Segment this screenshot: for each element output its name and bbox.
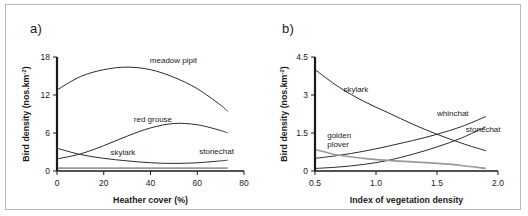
- x-axis-title: Heather cover (%): [113, 195, 188, 205]
- x-tick-label: 2.0: [492, 178, 504, 188]
- chart-b: 0.51.01.52.001.534.5Index of vegetation …: [258, 5, 516, 209]
- series-curve-meadow-pipit: [57, 67, 228, 111]
- panel-b: b) 0.51.01.52.001.534.5Index of vegetati…: [258, 5, 516, 209]
- x-tick-label: 80: [239, 178, 249, 188]
- y-axis-title: Bird density (nos.km-2): [21, 66, 31, 161]
- y-tick-label: 1.5: [296, 128, 308, 138]
- x-tick-label: 1.0: [370, 178, 382, 188]
- x-tick-label: 0.5: [309, 178, 321, 188]
- series-curve-golden-plover: [315, 149, 486, 168]
- y-tick-label: 0: [45, 166, 50, 176]
- x-tick-label: 40: [146, 178, 156, 188]
- x-axis-title: Index of vegetation density: [350, 195, 464, 205]
- y-tick-label: 6: [45, 128, 50, 138]
- series-label-stonechat: stonechat: [199, 147, 234, 156]
- y-tick-label: 3: [303, 90, 308, 100]
- figure-frame: a) 020406080061218Heather cover (%)Bird …: [5, 4, 521, 210]
- series-label-red-grouse: red grouse: [134, 115, 173, 124]
- series-label-golden-plover: goldenplover: [327, 131, 351, 149]
- y-tick-label: 4.5: [296, 52, 308, 62]
- chart-a: 020406080061218Heather cover (%)Bird den…: [6, 5, 264, 209]
- y-tick-label: 0: [303, 166, 308, 176]
- series-label-meadow-pipit: meadow pipit: [150, 56, 198, 65]
- y-axis-title: Bird density (nos.km-2): [279, 66, 289, 161]
- series-label-skylark: skylark: [343, 85, 369, 94]
- series-label-stonechat: stonechat: [466, 125, 501, 134]
- y-tick-label: 18: [41, 52, 51, 62]
- panel-a: a) 020406080061218Heather cover (%)Bird …: [6, 5, 264, 209]
- series-label-whinchat: whinchat: [436, 109, 469, 118]
- y-tick-label: 12: [41, 90, 51, 100]
- series-label-skylark: skylark: [110, 148, 136, 157]
- x-tick-label: 1.5: [431, 178, 443, 188]
- x-tick-label: 0: [55, 178, 60, 188]
- x-tick-label: 20: [99, 178, 109, 188]
- x-tick-label: 60: [193, 178, 203, 188]
